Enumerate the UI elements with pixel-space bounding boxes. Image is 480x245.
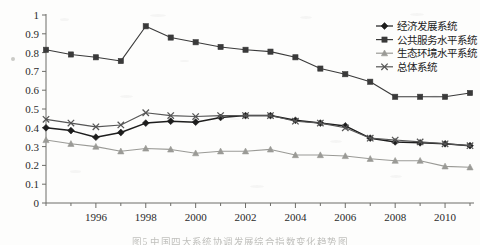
data-point-marker-diamond [417, 139, 424, 146]
legend-item[interactable]: 公共服务水平系统 [376, 34, 478, 46]
data-point-marker-square [418, 94, 423, 99]
x-axis-tick-label: 2006 [334, 211, 357, 223]
data-point-marker-square [368, 79, 373, 84]
legend-label: 公共服务水平系统 [397, 34, 478, 46]
x-axis-tick-label: 1998 [135, 211, 158, 223]
x-axis-tick-label: 2002 [235, 211, 257, 223]
figure-caption: 图5 中国四大系统协调发展综合指数变化趋势图 [0, 234, 480, 245]
data-point-marker-diamond [117, 129, 124, 136]
y-axis-tick-label: 0.1 [25, 178, 39, 190]
legend-label: 总体系统 [397, 61, 438, 73]
y-axis-tick-label: 0.7 [25, 65, 39, 77]
data-point-marker-square [293, 55, 298, 60]
y-axis-tick-label: 0.9 [25, 28, 39, 40]
data-point-marker-diamond [381, 23, 388, 30]
data-point-marker-diamond [92, 134, 99, 141]
x-axis-tick-label: 2004 [284, 211, 307, 223]
legend: 经济发展系统公共服务水平系统生态环境水平系统总体系统 [376, 20, 478, 73]
data-point-marker-diamond [142, 120, 149, 127]
data-point-marker-square [218, 44, 223, 49]
data-point-marker-diamond [43, 124, 50, 131]
data-point-marker-square [442, 94, 447, 99]
y-axis-tick-label: 0.3 [25, 141, 39, 153]
legend-label: 生态环境水平系统 [397, 47, 478, 59]
legend-label: 经济发展系统 [397, 20, 458, 32]
data-point-marker-square [393, 94, 398, 99]
data-point-marker-square [467, 90, 472, 95]
data-point-marker-square [118, 58, 123, 63]
y-axis-tick-label: 0.2 [25, 159, 39, 171]
data-point-marker-square [382, 37, 387, 42]
data-point-marker-square [93, 55, 98, 60]
x-axis-tick-label: 2010 [434, 211, 457, 223]
y-axis-tick-label: 0.6 [25, 84, 39, 96]
y-axis-tick-label: 0 [34, 197, 40, 209]
data-point-marker-square [168, 35, 173, 40]
data-point-marker-square [243, 47, 248, 52]
series-line [46, 140, 470, 167]
series-line [46, 113, 470, 146]
x-axis-tick-label: 1996 [85, 211, 108, 223]
data-point-marker-triangle [43, 137, 49, 143]
figure-container: 00.10.20.30.40.50.60.70.80.9119961998200… [0, 0, 480, 245]
y-axis-tick-label: 1 [34, 9, 40, 21]
data-point-marker-square [43, 47, 48, 52]
x-axis-tick-label: 2000 [185, 211, 208, 223]
y-axis-tick-label: 0.8 [25, 47, 39, 59]
legend-item[interactable]: 经济发展系统 [376, 20, 458, 32]
data-point-marker-square [318, 66, 323, 71]
data-point-marker-square [68, 52, 73, 57]
data-point-marker-square [143, 24, 148, 29]
data-point-marker-square [268, 49, 273, 54]
line-chart: 00.10.20.30.40.50.60.70.80.9119961998200… [0, 0, 480, 245]
data-point-marker-square [343, 72, 348, 77]
data-point-marker-diamond [68, 127, 75, 134]
x-axis-tick-label: 2008 [384, 211, 407, 223]
y-axis-tick-label: 0.4 [25, 122, 39, 134]
legend-item[interactable]: 总体系统 [376, 61, 438, 73]
legend-item[interactable]: 生态环境水平系统 [376, 47, 478, 59]
y-axis-tick-label: 0.5 [25, 103, 39, 115]
series-1 [43, 112, 474, 149]
data-point-marker-square [193, 40, 198, 45]
